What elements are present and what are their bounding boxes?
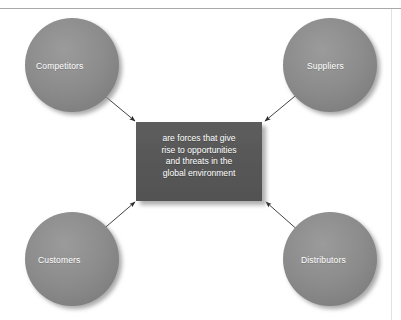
center-box-shape[interactable]	[136, 122, 262, 201]
diagram-graphics	[0, 0, 401, 320]
diagram-canvas: Competitors Suppliers Customers Distribu…	[0, 0, 401, 320]
node-shape-competitors[interactable]	[25, 18, 119, 112]
connector-suppliers-to-center	[265, 92, 300, 121]
node-shape-suppliers[interactable]	[283, 18, 377, 112]
node-shape-distributors[interactable]	[283, 212, 377, 306]
node-shape-customers[interactable]	[25, 212, 119, 306]
connector-distributors-to-center	[266, 202, 300, 232]
